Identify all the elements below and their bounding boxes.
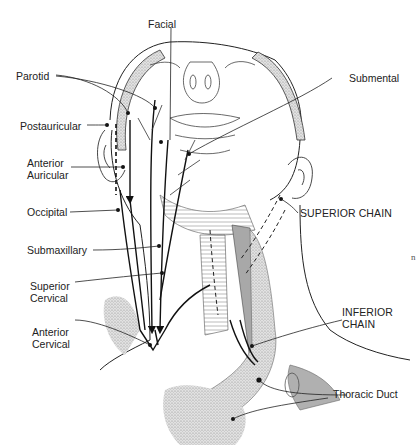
label-anterior-cervical-line1: Anterior: [32, 326, 69, 338]
trachea: [200, 235, 228, 335]
branch-lines: [138, 105, 200, 195]
lateral-stipple: [104, 296, 140, 355]
label-inferior-chain-line1: INFERIOR: [342, 306, 393, 318]
label-anterior-cervical-line2: Cervical: [32, 338, 70, 350]
scalp-band-left: [117, 50, 165, 150]
label-superior-cervical-line2: Cervical: [30, 292, 68, 304]
label-submaxillary: Submaxillary: [27, 244, 87, 256]
lymphatic-illustration: [0, 0, 418, 445]
label-anterior-auricular-line2: Auricular: [27, 169, 68, 181]
stray-mark: n: [411, 252, 416, 262]
label-inferior-chain-line2: CHAIN: [342, 318, 375, 330]
label-superior-cervical-line1: Superior: [30, 280, 70, 292]
label-anterior-auricular-line1: Anterior: [27, 157, 64, 169]
label-facial: Facial: [148, 18, 176, 30]
face-features: [150, 62, 255, 154]
label-thoracic-duct: Thoracic Duct: [333, 388, 398, 400]
label-superior-chain: SUPERIOR CHAIN: [300, 207, 392, 219]
label-submental: Submental: [349, 72, 399, 84]
label-occipital: Occipital: [27, 206, 67, 218]
label-postauricular: Postauricular: [20, 120, 81, 132]
label-parotid: Parotid: [16, 70, 49, 82]
